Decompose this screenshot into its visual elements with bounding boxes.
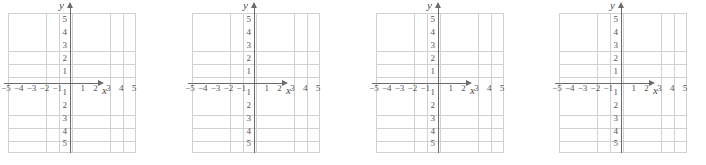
y-axis-arrow-icon [67,2,73,8]
y-axis-arrow-icon [251,2,257,8]
y-tick-label: 5 [421,15,435,24]
y-tick-label: 2 [604,101,618,110]
y-axis-line [438,7,439,153]
y-tick-label: 3 [53,41,67,50]
coordinate-grid-panel-2: x y −5 −4 −3 −2 −1 1 2 3 4 5 5 4 3 2 1 1… [122,0,302,165]
y-axis-line [70,7,71,153]
y-tick-label: 2 [421,101,435,110]
y-axis-line [621,7,622,153]
y-tick-label: 2 [604,54,618,63]
y-tick-label: 3 [604,41,618,50]
y-tick-label: 1 [53,67,67,76]
y-tick-label: 3 [421,41,435,50]
y-tick-label: 4 [421,127,435,136]
x-tick-label: 5 [678,84,692,93]
y-tick-label: 1 [604,88,618,97]
coordinate-grid-panel-1: x y −5 −4 −3 −2 −1 1 2 3 4 5 5 4 3 2 1 1… [0,0,118,165]
y-tick-label: 1 [421,88,435,97]
y-tick-label: 2 [53,54,67,63]
y-tick-label: 3 [237,41,251,50]
y-tick-label: 2 [237,101,251,110]
y-tick-label: 1 [53,88,67,97]
y-tick-label: 4 [53,28,67,37]
y-tick-label: 4 [604,28,618,37]
y-tick-label: 3 [237,114,251,123]
y-tick-label: 2 [53,101,67,110]
y-tick-label: 1 [604,67,618,76]
y-tick-label: 5 [53,15,67,24]
y-tick-label: 4 [237,28,251,37]
y-tick-label: 4 [53,127,67,136]
y-axis-arrow-icon [435,2,441,8]
y-tick-label: 5 [604,139,618,148]
coordinate-grid-panel-4: x y −5 −4 −3 −2 −1 1 2 3 4 5 5 4 3 2 1 1… [489,0,669,165]
y-tick-label: 3 [421,114,435,123]
y-tick-label: 5 [421,139,435,148]
y-axis-arrow-icon [618,2,624,8]
y-tick-label: 3 [53,114,67,123]
y-axis-label: y [610,0,615,11]
y-tick-label: 5 [237,139,251,148]
y-tick-label: 2 [421,54,435,63]
y-tick-label: 1 [421,67,435,76]
y-tick-label: 2 [237,54,251,63]
y-tick-label: 1 [237,67,251,76]
y-tick-label: 5 [237,15,251,24]
y-axis-label: y [59,0,64,11]
coordinate-grid-panel-3: x y −5 −4 −3 −2 −1 1 2 3 4 5 5 4 3 2 1 1… [306,0,486,165]
y-axis-label: y [427,0,432,11]
y-axis-line [254,7,255,153]
y-tick-label: 5 [53,139,67,148]
y-tick-label: 4 [237,127,251,136]
y-tick-label: 4 [421,28,435,37]
y-tick-label: 5 [604,15,618,24]
y-tick-label: 3 [604,114,618,123]
y-axis-label: y [243,0,248,11]
y-tick-label: 4 [604,127,618,136]
y-tick-label: 1 [237,88,251,97]
